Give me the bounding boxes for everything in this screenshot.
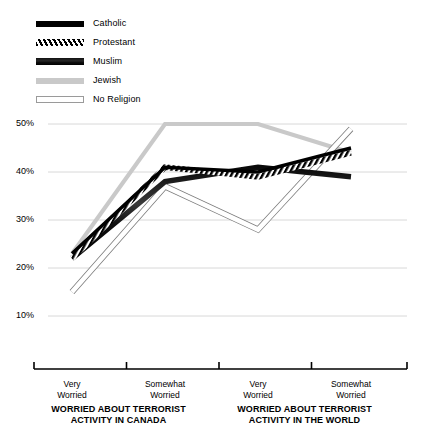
x-axis-category-line2: Worried	[306, 390, 396, 401]
x-axis-category-line2: Worried	[27, 390, 117, 401]
x-axis-category-2: VeryWorried	[213, 379, 303, 400]
y-axis-label-50: 50%	[4, 119, 34, 128]
group-title-line1: WORRIED ABOUT TERRORIST	[205, 404, 405, 415]
x-axis-category-1: SomewhatWorried	[120, 379, 210, 400]
x-axis-category-line1: Very	[213, 379, 303, 390]
x-axis-category-line1: Somewhat	[306, 379, 396, 390]
x-axis-category-line1: Very	[27, 379, 117, 390]
series-line-jewish	[72, 124, 351, 254]
y-axis-label-30: 30%	[4, 215, 34, 224]
x-axis-category-line2: Worried	[120, 390, 210, 401]
group-title-line2: ACTIVITY IN THE WORLD	[205, 415, 405, 426]
y-axis-label-10: 10%	[4, 311, 34, 320]
group-title-line2: ACTIVITY IN CANADA	[19, 415, 219, 426]
y-axis-label-20: 20%	[4, 263, 34, 272]
y-axis-label-40: 40%	[4, 167, 34, 176]
x-axis-category-line1: Somewhat	[120, 379, 210, 390]
x-axis-group-title-0: WORRIED ABOUT TERRORISTACTIVITY IN CANAD…	[19, 404, 219, 426]
x-axis-group-title-1: WORRIED ABOUT TERRORISTACTIVITY IN THE W…	[205, 404, 405, 426]
x-axis-category-3: SomewhatWorried	[306, 379, 396, 400]
group-title-line1: WORRIED ABOUT TERRORIST	[19, 404, 219, 415]
x-axis-category-0: VeryWorried	[27, 379, 117, 400]
x-axis-category-line2: Worried	[213, 390, 303, 401]
chart-root: Catholic Protestant Muslim Jewish No Rel…	[0, 0, 434, 448]
